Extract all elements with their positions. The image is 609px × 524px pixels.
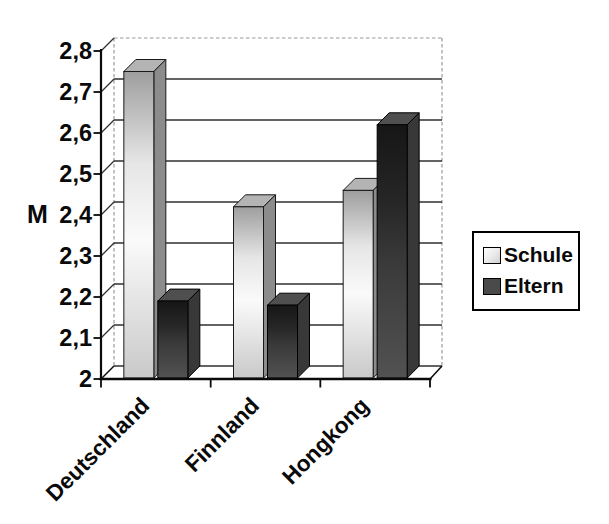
category-label-finnland: Finnland — [180, 393, 264, 477]
chart-page: 22,12,22,32,42,52,62,72,8MDeutschlandFin… — [0, 0, 609, 524]
legend-label-schule: Schule — [504, 244, 573, 266]
y-tick-label: 2,8 — [59, 38, 92, 64]
legend-swatch-eltern — [483, 278, 501, 295]
bar-deutschland-eltern — [158, 289, 200, 378]
category-label-hongkong: Hongkong — [277, 393, 373, 489]
y-tick-label: 2 — [79, 366, 92, 392]
legend-item-eltern: Eltern — [483, 275, 572, 297]
y-tick-label: 2,3 — [59, 243, 92, 269]
legend-box: Schule Eltern — [472, 231, 580, 311]
y-tick-label: 2,6 — [59, 120, 92, 146]
y-axis-title: M — [27, 200, 48, 228]
legend-swatch-schule — [483, 247, 501, 264]
bar-finnland-eltern — [268, 293, 310, 378]
legend-label-eltern: Eltern — [504, 275, 564, 297]
y-tick-label: 2,2 — [59, 284, 92, 310]
category-label-deutschland: Deutschland — [41, 393, 154, 506]
y-tick-label: 2,7 — [59, 79, 92, 105]
legend-item-schule: Schule — [483, 244, 572, 266]
bar-hongkong-eltern — [377, 113, 419, 378]
y-tick-label: 2,1 — [59, 325, 92, 351]
y-tick-label: 2,4 — [59, 202, 92, 228]
y-tick-label: 2,5 — [59, 161, 92, 187]
